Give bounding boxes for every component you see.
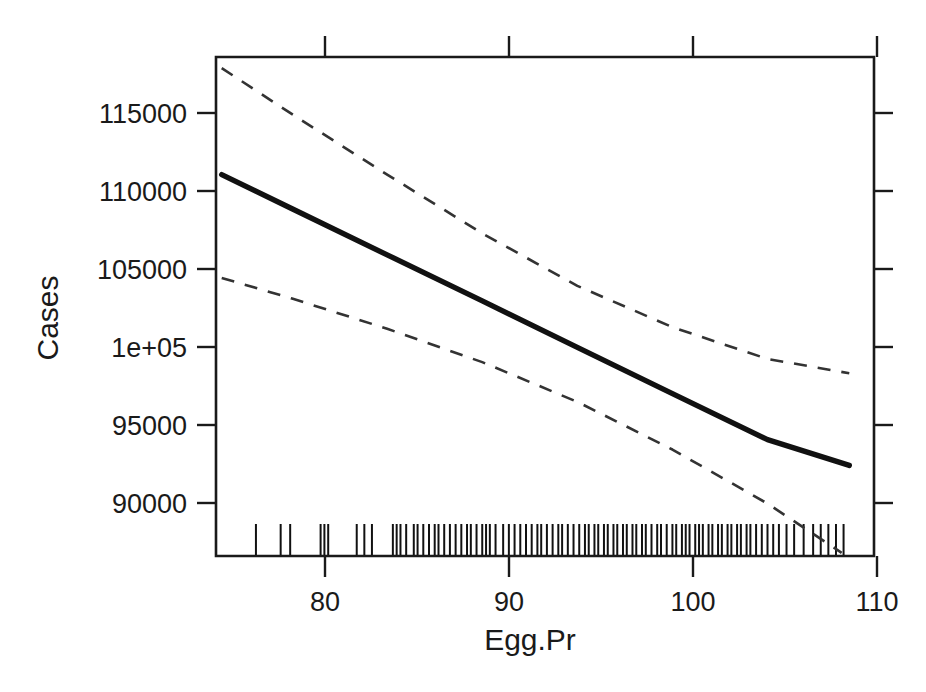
lower-confidence-band [222,278,842,553]
x-axis-ticks-top [325,36,877,57]
chart-figure: 115000 110000 105000 1e+05 95000 90000 8… [0,0,926,692]
y-axis-ticks-left [197,113,216,503]
x-tick-label-90: 90 [494,587,524,617]
y-tick-label-95000: 95000 [112,411,187,441]
x-axis-title: Egg.Pr [484,623,576,656]
x-axis-tick-labels: 80 90 100 110 [310,587,899,617]
data-region [222,68,850,553]
y-tick-label-100000: 1e+05 [111,333,187,363]
x-axis-ticks-bottom [325,556,877,577]
y-tick-label-105000: 105000 [97,255,187,285]
rug-plot [256,524,844,555]
regression-plot-svg: 115000 110000 105000 1e+05 95000 90000 8… [0,0,926,692]
x-tick-label-100: 100 [670,587,715,617]
y-axis-ticks-right [874,113,893,503]
regression-fit-line [222,175,850,466]
y-tick-label-110000: 110000 [99,177,187,207]
y-axis-title: Cases [31,275,64,360]
y-tick-label-90000: 90000 [112,489,187,519]
y-tick-label-115000: 115000 [99,99,187,129]
x-tick-label-110: 110 [855,587,898,617]
y-axis-tick-labels: 115000 110000 105000 1e+05 95000 90000 [97,99,187,519]
x-tick-label-80: 80 [310,587,340,617]
